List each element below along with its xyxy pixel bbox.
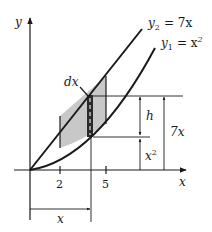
h-label: h: [146, 109, 154, 123]
area-diagram: y x y2= 7x y1= x2 2 5 dx h x2 7x x: [0, 0, 212, 232]
tick-label-2: 2: [56, 178, 63, 191]
x-axis-label: x: [179, 175, 186, 189]
tick-label-5: 5: [102, 178, 109, 191]
7x-label: 7x: [170, 125, 185, 139]
y-axis-label: y: [14, 15, 22, 29]
dx-pointer: [80, 87, 88, 96]
svg-text:y1= x2: y1= x2: [160, 35, 203, 52]
label-y2: y2= 7x: [147, 16, 192, 32]
label-y1: y1= x2: [160, 35, 203, 52]
curve-y2-7x: [30, 29, 142, 170]
x-dimension-label: x: [57, 212, 64, 226]
dx-label: dx: [64, 75, 79, 89]
x2-label: x2: [145, 148, 157, 163]
svg-text:y2= 7x: y2= 7x: [147, 16, 192, 32]
